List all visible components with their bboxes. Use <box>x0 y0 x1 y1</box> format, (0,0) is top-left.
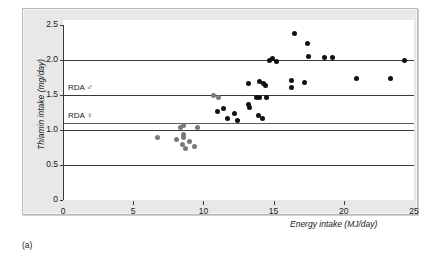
scatter-point <box>257 95 262 100</box>
gridline-1-5 <box>63 95 414 96</box>
x-tick-label: 10 <box>193 207 213 216</box>
x-tick-label: 25 <box>404 207 424 216</box>
scatter-point <box>322 55 327 60</box>
y-tick-label: 2.5 <box>32 20 58 29</box>
scatter-point <box>302 80 307 85</box>
scatter-point <box>225 116 230 121</box>
y-tick-mark <box>60 60 63 61</box>
gridline-2 <box>63 60 414 61</box>
scatter-point <box>402 58 407 63</box>
rda-female-label: RDA ♀ <box>68 111 93 120</box>
plot-area <box>63 20 414 200</box>
y-tick-mark <box>60 95 63 96</box>
scatter-point <box>155 135 160 140</box>
y-tick-label: 0.5 <box>32 160 58 169</box>
x-tick-label: 15 <box>264 207 284 216</box>
x-tick-label: 0 <box>53 207 73 216</box>
figure-root: 00.51.01.52.02.50510152025 RDA ♂RDA ♀ Th… <box>0 0 444 265</box>
scatter-point <box>305 41 310 46</box>
scatter-point <box>211 93 216 98</box>
scatter-point <box>221 106 226 111</box>
x-axis-title: Energy intake (MJ/day) <box>290 219 377 229</box>
x-tick-mark <box>344 201 345 205</box>
y-tick-label: 0 <box>32 195 58 204</box>
y-tick-mark <box>60 165 63 166</box>
rda-male-label: RDA ♂ <box>68 83 93 92</box>
x-tick-label: 20 <box>334 207 354 216</box>
gridline-1 <box>63 130 414 131</box>
x-tick-mark <box>133 201 134 205</box>
scatter-point <box>183 146 188 151</box>
y-axis-line <box>63 25 64 200</box>
x-tick-mark <box>203 201 204 205</box>
figure-caption: (a) <box>22 240 32 250</box>
gridline-1-1 <box>63 123 414 124</box>
y-tick-mark <box>60 200 63 201</box>
scatter-point <box>235 118 240 123</box>
y-tick-mark <box>60 25 63 26</box>
scatter-point <box>246 81 251 86</box>
scatter-point <box>274 59 279 64</box>
gridline-0-5 <box>63 165 414 166</box>
y-axis-title: Thiamin intake (mg/day) <box>36 59 46 150</box>
scatter-point <box>330 55 335 60</box>
y-tick-mark <box>60 130 63 131</box>
x-tick-label: 5 <box>123 207 143 216</box>
x-tick-mark <box>274 201 275 205</box>
scatter-point <box>260 116 265 121</box>
